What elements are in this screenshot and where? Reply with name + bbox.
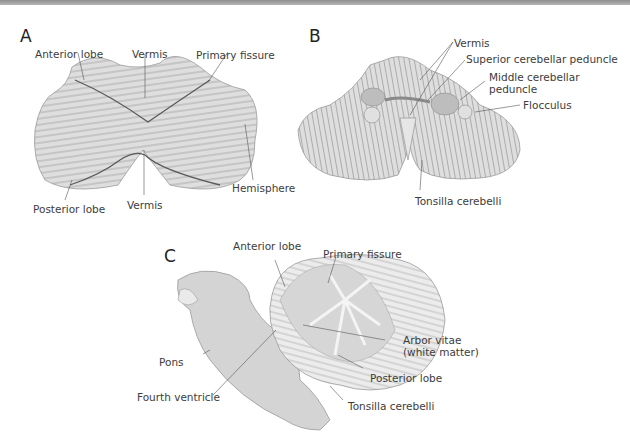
panel-a-illustration (34, 52, 257, 200)
cerebellum-figure (0, 0, 630, 440)
label-vermis-b: Vermis (454, 37, 490, 49)
label-anterior-lobe-c: Anterior lobe (233, 240, 301, 252)
label-primary-fissure-c: Primary fissure (323, 248, 402, 260)
label-arbor-vitae-c-line2: (white matter) (403, 346, 479, 358)
label-superior-peduncle-b: Superior cerebellar peduncle (466, 53, 618, 65)
label-primary-fissure-a: Primary fissure (196, 49, 275, 61)
label-middle-peduncle-b-line2: peduncle (489, 83, 537, 95)
panel-a-letter: A (20, 26, 32, 46)
label-anterior-lobe-a: Anterior lobe (35, 48, 103, 60)
label-hemisphere-a: Hemisphere (232, 182, 295, 194)
label-flocculus-b: Flocculus (523, 99, 572, 111)
label-posterior-lobe-c: Posterior lobe (370, 372, 442, 384)
label-posterior-lobe-a: Posterior lobe (33, 203, 105, 215)
label-tonsilla-c: Tonsilla cerebelli (348, 400, 434, 412)
label-tonsilla-b: Tonsilla cerebelli (415, 195, 501, 207)
label-arbor-vitae-c-line1: Arbor vitae (403, 334, 461, 346)
label-fourth-ventricle-c: Fourth ventricle (137, 391, 220, 403)
label-vermis-top-a: Vermis (132, 48, 168, 60)
label-middle-peduncle-b-line1: Middle cerebellar (489, 71, 580, 83)
panel-b-letter: B (309, 26, 321, 46)
label-vermis-bottom-a: Vermis (127, 199, 163, 211)
panel-c-letter: C (164, 246, 176, 266)
label-pons-c: Pons (159, 356, 184, 368)
